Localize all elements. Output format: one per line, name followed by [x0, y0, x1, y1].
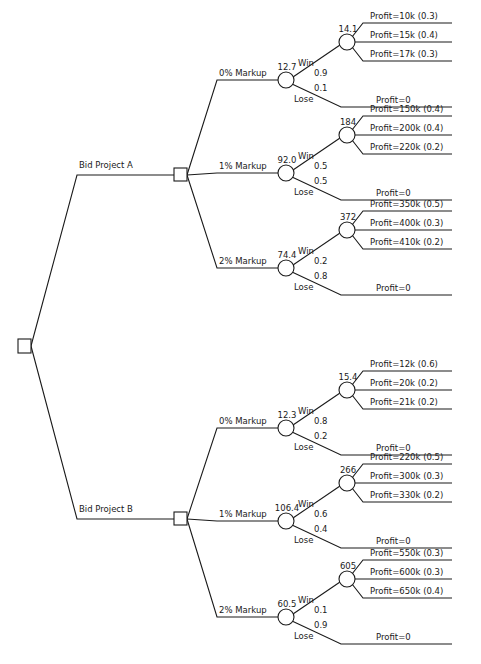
- lose-probability: 0.9: [314, 620, 328, 630]
- edge-markup-0-1: [187, 173, 278, 175]
- project-label-0: Bid Project A: [79, 160, 133, 170]
- outcome-label: Profit=10k (0.3): [370, 11, 438, 21]
- edge-markup-1-2: [187, 519, 278, 617]
- win-expected-value: 605: [340, 561, 356, 571]
- edge-root-to-project: [31, 175, 174, 346]
- markup-expected-value: 12.3: [278, 410, 297, 420]
- outcome-label: Profit=150k (0.4): [370, 104, 443, 114]
- outcome-label: Profit=550k (0.3): [370, 548, 443, 558]
- edge-root-to-project: [31, 346, 174, 519]
- markup-expected-value: 74.4: [278, 250, 297, 260]
- win-probability: 0.6: [314, 509, 328, 519]
- lose-label: Lose: [294, 442, 313, 452]
- outcome-label: Profit=12k (0.6): [370, 359, 438, 369]
- markup-chance-node: [278, 513, 294, 529]
- win-chance-node: [339, 34, 355, 50]
- markup-expected-value: 12.7: [278, 62, 297, 72]
- markup-expected-value: 106.4: [275, 503, 299, 513]
- outcome-label: Profit=400k (0.3): [370, 218, 443, 228]
- outcome-label: Profit=300k (0.3): [370, 471, 443, 481]
- lose-outcome-label: Profit=0: [376, 283, 411, 293]
- outcome-label: Profit=17k (0.3): [370, 49, 438, 59]
- lose-outcome-label: Profit=0: [376, 188, 411, 198]
- win-probability: 0.1: [314, 605, 328, 615]
- decision-tree: Bid Project A0% Markup12.7Win0.914.1Prof…: [0, 0, 481, 664]
- outcome-label: Profit=200k (0.4): [370, 123, 443, 133]
- markup-chance-node: [278, 72, 294, 88]
- markup-chance-node: [278, 165, 294, 181]
- win-expected-value: 266: [340, 465, 356, 475]
- win-label: Win: [298, 151, 314, 161]
- markup-label: 1% Markup: [219, 161, 267, 171]
- lose-probability: 0.4: [314, 524, 328, 534]
- lose-label: Lose: [294, 94, 313, 104]
- lose-label: Lose: [294, 535, 313, 545]
- outcome-label: Profit=650k (0.4): [370, 586, 443, 596]
- outcome-label: Profit=15k (0.4): [370, 30, 438, 40]
- markup-expected-value: 92.0: [278, 155, 297, 165]
- outcome-label: Profit=220k (0.2): [370, 142, 443, 152]
- win-label: Win: [298, 499, 314, 509]
- lose-probability: 0.5: [314, 176, 328, 186]
- lose-label: Lose: [294, 282, 313, 292]
- win-probability: 0.8: [314, 416, 328, 426]
- win-label: Win: [298, 246, 314, 256]
- win-probability: 0.5: [314, 161, 328, 171]
- lose-label: Lose: [294, 631, 313, 641]
- markup-chance-node: [278, 420, 294, 436]
- outcome-label: Profit=350k (0.5): [370, 199, 443, 209]
- win-probability: 0.9: [314, 68, 328, 78]
- win-label: Win: [298, 595, 314, 605]
- outcome-label: Profit=600k (0.3): [370, 567, 443, 577]
- lose-probability: 0.8: [314, 271, 328, 281]
- outcome-label: Profit=21k (0.2): [370, 397, 438, 407]
- markup-chance-node: [278, 609, 294, 625]
- win-probability: 0.2: [314, 256, 328, 266]
- tree-labels: Bid Project A0% Markup12.7Win0.914.1Prof…: [79, 11, 443, 642]
- project-decision-node-0: [174, 168, 187, 181]
- win-expected-value: 184: [340, 117, 356, 127]
- root-decision-node: [18, 339, 31, 353]
- markup-expected-value: 60.5: [278, 599, 297, 609]
- lose-probability: 0.1: [314, 83, 328, 93]
- edge-markup-1-1: [187, 519, 278, 521]
- win-chance-node: [339, 571, 355, 587]
- project-label-1: Bid Project B: [79, 504, 133, 514]
- lose-probability: 0.2: [314, 431, 328, 441]
- markup-label: 2% Markup: [219, 256, 267, 266]
- project-decision-node-1: [174, 512, 187, 525]
- lose-label: Lose: [294, 187, 313, 197]
- win-chance-node: [339, 222, 355, 238]
- edge-markup-1-0: [187, 428, 278, 519]
- win-label: Win: [298, 58, 314, 68]
- markup-chance-node: [278, 260, 294, 276]
- win-expected-value: 14.1: [339, 24, 358, 34]
- lose-outcome-label: Profit=0: [376, 632, 411, 642]
- win-label: Win: [298, 406, 314, 416]
- win-expected-value: 372: [340, 212, 356, 222]
- markup-label: 1% Markup: [219, 509, 267, 519]
- outcome-label: Profit=330k (0.2): [370, 490, 443, 500]
- win-expected-value: 15.4: [339, 372, 358, 382]
- outcome-label: Profit=410k (0.2): [370, 237, 443, 247]
- win-chance-node: [339, 475, 355, 491]
- markup-label: 0% Markup: [219, 68, 267, 78]
- outcome-label: Profit=20k (0.2): [370, 378, 438, 388]
- win-chance-node: [339, 127, 355, 143]
- lose-outcome-label: Profit=0: [376, 536, 411, 546]
- outcome-label: Profit=220k (0.5): [370, 452, 443, 462]
- markup-label: 0% Markup: [219, 416, 267, 426]
- edge-markup-0-2: [187, 175, 278, 268]
- win-chance-node: [339, 382, 355, 398]
- markup-label: 2% Markup: [219, 605, 267, 615]
